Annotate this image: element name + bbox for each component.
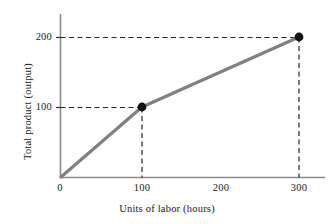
y-axis-title: Total product (output): [22, 63, 33, 160]
data-point-marker-300-200: [295, 33, 304, 42]
y-tick-label-200: 200: [12, 31, 52, 42]
x-axis-title: Units of labor (hours): [0, 203, 334, 214]
x-tick-label-300: 300: [281, 182, 317, 193]
x-tick-label-200: 200: [203, 182, 239, 193]
x-tick-label-0: 0: [46, 182, 74, 193]
x-tick-label-100: 100: [124, 182, 160, 193]
data-point-marker-100-100: [138, 103, 147, 112]
total-product-chart: 200 100 0 100 200 300 Units of labor (ho…: [0, 0, 334, 224]
